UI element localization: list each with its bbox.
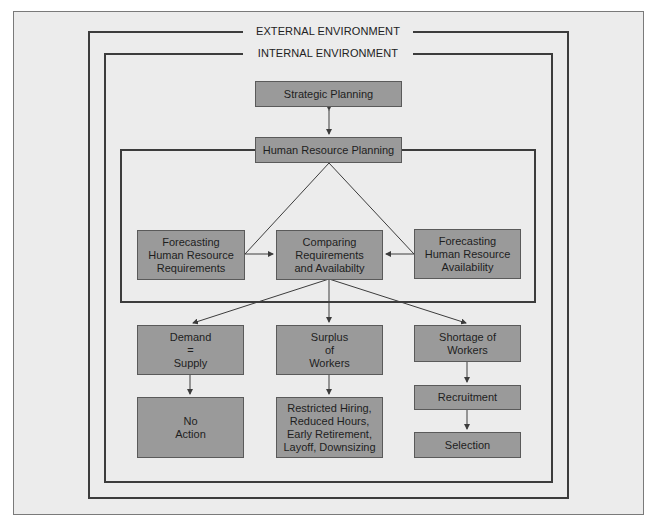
surplus-actions-box: Restricted Hiring, Reduced Hours, Early … [276,397,383,458]
comparing-box: Comparing Requirements and Availabilty [276,230,383,280]
hr-planning-box: Human Resource Planning [255,137,402,163]
demand-supply-box: Demand = Supply [137,325,244,375]
surplus-box: Surplus of Workers [276,325,383,375]
no-action-box: No Action [137,397,244,458]
shortage-box: Shortage of Workers [414,325,521,362]
selection-box: Selection [414,432,521,458]
forecast-requirements-box: Forecasting Human Resource Requirements [137,230,245,280]
recruitment-box: Recruitment [414,385,521,410]
strategic-planning-box: Strategic Planning [255,81,402,107]
forecast-availability-box: Forecasting Human Resource Availability [414,229,521,279]
